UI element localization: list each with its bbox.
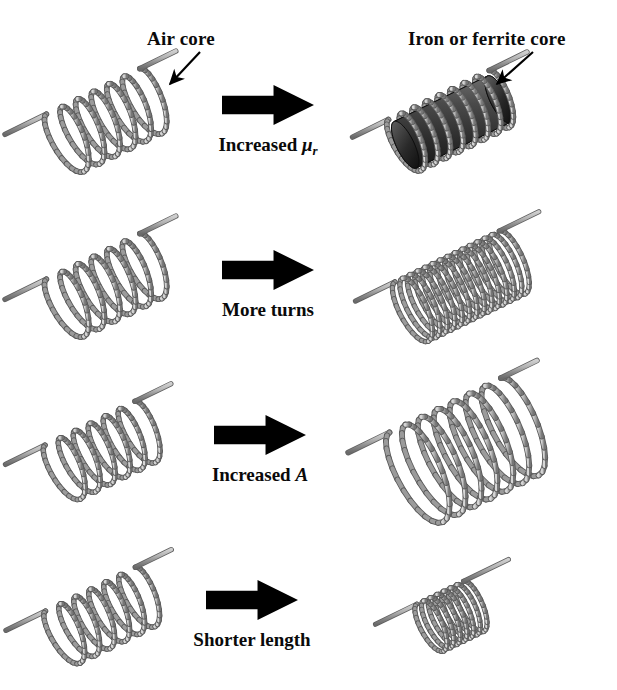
iron-core-label: Iron or ferrite core [408, 28, 566, 50]
label-row-1-symbol-subscript: r [313, 143, 318, 158]
arrow-row-4 [206, 580, 298, 620]
label-row-1: Increased μr [218, 134, 317, 159]
arrow-row-3 [214, 415, 306, 455]
air-core-pointer-line [170, 52, 200, 84]
label-row-1-symbol: μ [302, 134, 313, 155]
small-area-coil [5, 384, 170, 500]
short-coil [375, 559, 508, 651]
label-row-1-text: Increased [218, 134, 302, 155]
arrow-row-2 [222, 250, 314, 290]
transition-arrows-layer [206, 85, 314, 620]
iron-core-coil [353, 52, 527, 171]
label-row-4-text: Shorter length [193, 629, 310, 650]
label-row-4: Shorter length [193, 629, 310, 651]
large-area-coil [348, 361, 545, 523]
label-row-2-text: More turns [222, 299, 314, 320]
label-row-3-text: Increased [212, 464, 296, 485]
arrow-row-1 [222, 85, 314, 125]
inductance-factors-figure [0, 0, 617, 690]
few-turns-coil [5, 216, 176, 337]
air-core-label: Air core [147, 28, 215, 50]
label-row-2: More turns [222, 299, 314, 321]
air-core-coil [5, 51, 176, 172]
many-turns-coil [355, 212, 538, 342]
label-row-3-symbol: A [295, 464, 308, 485]
long-coil [6, 550, 171, 664]
label-row-3: Increased A [212, 464, 308, 486]
